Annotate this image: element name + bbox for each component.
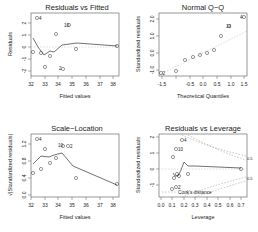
x-axis-label: Fitted values <box>59 214 90 220</box>
x-tick: 0.5 <box>214 81 221 87</box>
panel-residuals-vs-fitted: Residuals vs Fitted 2 1 0 -1 -2 Residual… <box>7 3 119 99</box>
lowess-smoother <box>33 38 117 55</box>
x-tick: 36 <box>83 202 89 208</box>
y-tick: -2 <box>21 69 27 74</box>
point-label: 2 <box>163 71 166 76</box>
panel-title: Residuals vs Fitted <box>45 3 108 12</box>
cooks-contour-label: 0.5 <box>247 156 253 161</box>
point-label: 10 <box>226 24 232 29</box>
x-tick: -0.5 <box>186 81 195 87</box>
diagnostic-plots: Residuals vs Fitted 2 1 0 -1 -2 Residual… <box>0 0 258 232</box>
x-tick: 32 <box>28 81 34 87</box>
y-axis-label: Standardized residuals <box>135 16 141 72</box>
y-tick: -1.0 <box>149 65 155 74</box>
plot-frame <box>31 13 119 76</box>
lowess-smoother <box>33 153 117 185</box>
data-points <box>159 15 245 74</box>
x-axis-label: Theoretical Quantiles <box>177 93 229 99</box>
y-tick: 1 <box>21 33 27 36</box>
data-points <box>31 137 118 185</box>
y-tick: 0.8 <box>21 157 27 164</box>
y-tick: 0 <box>149 167 155 170</box>
x-tick: 32 <box>28 202 34 208</box>
y-tick: -1 <box>21 57 27 62</box>
x-tick: 38 <box>110 202 116 208</box>
point-label: 4 <box>39 137 42 142</box>
x-tick: 0.0 <box>158 202 165 208</box>
y-tick: 2 <box>21 21 27 24</box>
x-tick: 0.6 <box>227 202 234 208</box>
y-tick: 0.0 <box>149 49 155 56</box>
y-tick: 2 <box>149 135 155 138</box>
y-axis-label: Residuals <box>7 32 13 56</box>
x-tick: 35 <box>69 202 75 208</box>
x-tick: 0.4 <box>204 202 211 208</box>
x-tick: 37 <box>97 81 103 87</box>
y-tick: 1.2 <box>21 140 27 147</box>
cooks-contour-label: 0.5 <box>247 176 253 181</box>
legend-label: Cook's distance <box>178 190 212 195</box>
x-tick: 0.3 <box>192 202 199 208</box>
x-tick: 38 <box>110 81 116 87</box>
x-tick: 0.2 <box>181 202 188 208</box>
x-tick: 36 <box>83 81 89 87</box>
y-tick: 2.0 <box>149 15 155 22</box>
x-tick: 0.1 <box>169 202 176 208</box>
qq-reference-line <box>159 31 247 75</box>
point-label: 2 <box>178 185 181 190</box>
x-tick: 33 <box>42 81 48 87</box>
y-axis-label: √|Standardized residuals| <box>7 134 13 196</box>
panel-residuals-vs-leverage: Residuals vs Leverage 2 1 0 -1 Standardi… <box>135 124 253 220</box>
panel-scale-location: Scale−Location 0.0 0.4 0.8 1.2 √|Standar… <box>7 124 119 220</box>
x-tick: 0.5 <box>215 202 222 208</box>
panel-normal-qq: Normal Q−Q 2.0 1.0 0.0 -1.0 Standardized… <box>135 3 248 99</box>
y-tick: -1 <box>149 183 155 188</box>
x-tick: 0.0 <box>200 81 207 87</box>
x-axis-label: Fitted values <box>59 93 90 99</box>
x-tick: 33 <box>42 202 48 208</box>
x-axis-label: Leverage <box>192 214 215 220</box>
point-label: 10 <box>58 143 64 148</box>
legend: Cook's distance <box>162 190 212 195</box>
point-label: 10 <box>178 147 184 152</box>
y-tick: 0 <box>21 45 27 48</box>
x-tick: 34 <box>55 81 61 87</box>
x-tick: 1.0 <box>228 81 235 87</box>
plot-frame <box>159 13 247 76</box>
y-tick: 1.0 <box>149 32 155 39</box>
y-tick: 1 <box>149 151 155 154</box>
x-tick: 0.7 <box>238 202 245 208</box>
panel-title: Normal Q−Q <box>182 3 224 12</box>
y-axis-label: Standardized residuals <box>135 137 141 193</box>
x-tick: 34 <box>55 202 61 208</box>
x-tick: 37 <box>97 202 103 208</box>
point-label: 10 <box>64 23 70 28</box>
x-tick: 1.5 <box>241 81 248 87</box>
point-label: 4 <box>184 138 187 143</box>
point-label: 4 <box>39 16 42 21</box>
plot-frame <box>31 134 119 197</box>
panel-title: Scale−Location <box>51 124 103 133</box>
panel-title: Residuals vs Leverage <box>165 124 241 133</box>
point-label: 2 <box>70 144 73 149</box>
y-tick: 0.0 <box>21 191 27 198</box>
x-tick: 35 <box>69 81 75 87</box>
x-tick: -1.5 <box>158 81 167 87</box>
y-tick: 0.4 <box>21 174 27 181</box>
